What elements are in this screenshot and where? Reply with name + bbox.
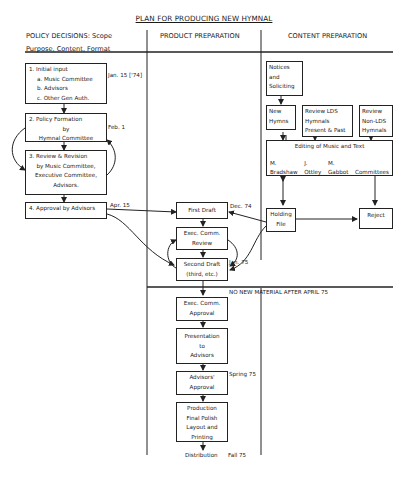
holding-file-box: Holding File — [266, 208, 296, 232]
notices-arrow — [0, 0, 408, 480]
review-lds-line: Hymnals — [305, 117, 350, 127]
editing-label: Editing of Music and Text — [267, 142, 392, 152]
new-hymns-box: New Hymns — [266, 105, 296, 130]
new-hymns-line: Hymns — [269, 117, 293, 127]
review-non-lds-line: Hymnals — [362, 126, 390, 136]
review-lds-box: Review LDS Hymnals Present & Past — [302, 105, 353, 137]
holding-file-line: Holding — [267, 210, 295, 220]
review-lds-line: Present & Past — [305, 126, 350, 136]
editor: J.Ottley — [304, 159, 321, 178]
editors-list: M.Bradshaw J.Ottley M.Gabbot Committees — [267, 159, 392, 178]
holding-file-line: File — [267, 220, 295, 230]
review-lds-line: Review LDS — [305, 107, 350, 117]
editor: M.Gabbot — [328, 159, 348, 178]
new-hymns-line: New — [269, 107, 293, 117]
review-non-lds-line: Non-LDS — [362, 117, 390, 127]
review-non-lds-line: Review — [362, 107, 390, 117]
reject-box: Reject — [359, 208, 393, 229]
review-non-lds-box: Review Non-LDS Hymnals — [359, 105, 393, 137]
editor: Committees — [355, 159, 389, 178]
editor: M.Bradshaw — [270, 159, 298, 178]
editing-box: Editing of Music and Text M.Bradshaw J.O… — [266, 140, 393, 176]
